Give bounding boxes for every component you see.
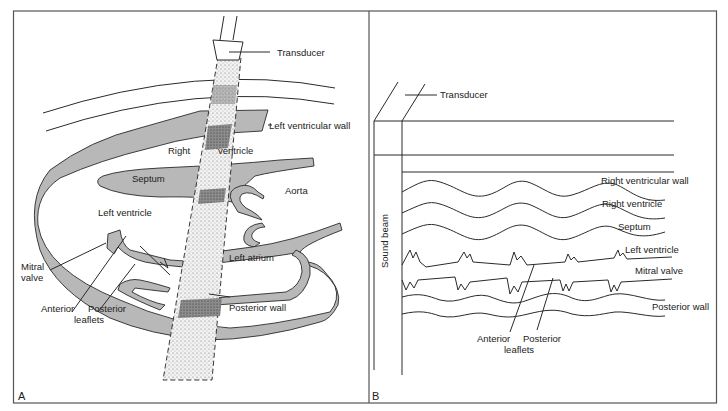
echocardiography-figure: Transducer Left ventricular wall Right v… — [0, 0, 728, 411]
label-b-sound-beam: Sound beam — [379, 214, 390, 268]
label-b-right-ventricular-wall: Right ventricular wall — [601, 175, 689, 186]
label-a-left-atrium: Left atrium — [229, 252, 274, 263]
label-a-left-ventricle: Left ventricle — [98, 207, 152, 218]
transducer-probe — [213, 16, 270, 60]
trace-mitral-valve — [402, 277, 672, 294]
label-b-leaflets: leaflets — [504, 344, 534, 355]
label-a-anterior: Anterior — [41, 303, 74, 314]
label-b-posterior: Posterior — [523, 333, 561, 344]
label-b-right-ventricle: Right ventricle — [602, 198, 662, 209]
panel-b: Transducer Sound beam Right ventricular … — [372, 82, 709, 402]
label-b-mitral-valve: Mitral valve — [635, 265, 683, 276]
panel-a: Transducer Left ventricular wall Right v… — [18, 16, 350, 402]
label-a-mitral: Mitral — [21, 261, 44, 272]
label-a-left-ventricular-wall: Left ventricular wall — [269, 120, 350, 131]
label-a-transducer: Transducer — [277, 47, 325, 58]
trace-posterior-wall-1 — [402, 294, 665, 303]
label-a-ventricle: ventricle — [218, 145, 253, 156]
label-b-left-ventricle: Left ventricle — [625, 244, 679, 255]
label-a-posterior-wall: Posterior wall — [229, 302, 286, 313]
panel-letter-a: A — [18, 390, 26, 402]
label-a-right: Right — [168, 145, 191, 156]
label-b-anterior: Anterior — [477, 333, 510, 344]
label-b-transducer: Transducer — [440, 89, 488, 100]
trace-posterior-wall-2 — [402, 310, 665, 317]
label-a-aorta: Aorta — [285, 185, 308, 196]
label-b-septum: Septum — [618, 221, 651, 232]
label-a-valve: valve — [21, 272, 43, 283]
label-a-leaflets: leaflets — [74, 314, 104, 325]
label-b-posterior-wall: Posterior wall — [652, 301, 709, 312]
chest-wall-outer — [43, 79, 335, 113]
label-a-posterior: Posterior — [88, 303, 126, 314]
label-a-septum: Septum — [132, 173, 165, 184]
panel-letter-b: B — [372, 390, 379, 402]
